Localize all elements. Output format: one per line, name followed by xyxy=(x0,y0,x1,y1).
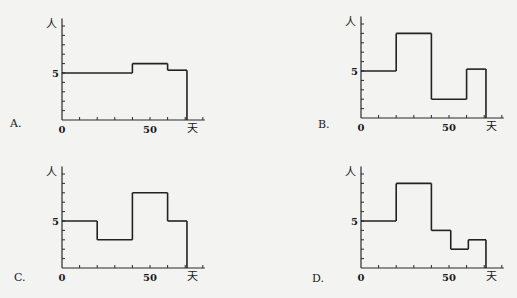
y-axis-label: 人 xyxy=(46,18,57,31)
chart-panel-b: B. 人 天 0 50 5 xyxy=(318,16,504,133)
y-axis-label: 人 xyxy=(46,166,57,179)
x-tick-label-origin: 0 xyxy=(59,124,66,135)
x-tick-label-origin: 0 xyxy=(358,122,365,133)
y-axis-label: 人 xyxy=(345,16,356,29)
x-tick-label-50: 50 xyxy=(442,272,456,283)
chart-figure: A. 人 天 0 50 5 B. 人 天 0 50 5 C. 人 天 0 50 … xyxy=(0,0,517,298)
chart-panel-c: C. 人 天 0 50 5 xyxy=(14,166,205,284)
x-tick-label-origin: 0 xyxy=(358,272,365,283)
option-label: B. xyxy=(318,118,330,131)
x-tick-label-50: 50 xyxy=(143,272,157,283)
y-tick-label-5: 5 xyxy=(52,216,59,227)
y-tick-label-5: 5 xyxy=(351,66,358,77)
chart-panel-a: A. 人 天 0 50 5 xyxy=(9,18,205,135)
chart-panel-d: D. 人 天 0 50 5 xyxy=(312,166,504,285)
y-tick-label-5: 5 xyxy=(52,68,59,79)
x-axis-label: 天 xyxy=(486,270,497,283)
x-axis-label: 天 xyxy=(187,270,198,283)
option-label: A. xyxy=(9,117,21,130)
y-tick-label-5: 5 xyxy=(351,216,358,227)
option-label: D. xyxy=(312,272,324,285)
y-axis-label: 人 xyxy=(345,166,356,179)
x-tick-label-origin: 0 xyxy=(59,272,66,283)
x-tick-label-50: 50 xyxy=(143,124,157,135)
option-label: C. xyxy=(14,271,26,284)
x-axis-label: 天 xyxy=(486,120,497,133)
x-axis-label: 天 xyxy=(187,122,198,135)
x-tick-label-50: 50 xyxy=(442,122,456,133)
